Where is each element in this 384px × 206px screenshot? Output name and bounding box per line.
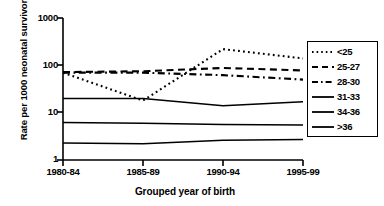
legend-swatch-dotted-icon <box>312 47 334 57</box>
legend-label-31-33: 31-33 <box>337 91 360 102</box>
legend-swatch-dashdot-icon <box>312 77 334 87</box>
x-axis-title: Grouped year of birth <box>60 186 310 197</box>
series-line-25-27 <box>63 68 303 72</box>
legend-item-34-36[interactable]: 34-36 <box>308 104 377 119</box>
legend-item-gt36[interactable]: >36 <box>308 119 377 134</box>
series-layer <box>63 49 303 144</box>
x-tick-label-1990-94: 1990-94 <box>188 166 258 177</box>
x-tick-label-1980-84: 1980-84 <box>28 166 98 177</box>
series-line-28-30 <box>63 73 303 80</box>
legend-label-lt25: <25 <box>337 46 352 57</box>
chart-container: Rate per 1000 neonatal survivors 1000 10… <box>0 0 384 206</box>
legend-item-25-27[interactable]: 25-27 <box>308 59 377 74</box>
x-tick-label-1985-89: 1985-89 <box>108 166 178 177</box>
legend: <25 25-27 28-30 31-33 34-36 <box>307 41 378 137</box>
legend-label-28-30: 28-30 <box>337 76 360 87</box>
legend-swatch-solid2-icon <box>312 107 334 117</box>
series-line-34-36 <box>63 122 303 124</box>
x-tick-label-1995-99: 1995-99 <box>268 166 338 177</box>
legend-label-gt36: >36 <box>337 121 352 132</box>
legend-label-25-27: 25-27 <box>337 61 360 72</box>
legend-swatch-solid3-icon <box>312 122 334 132</box>
series-line-gt36 <box>63 140 303 144</box>
legend-item-28-30[interactable]: 28-30 <box>308 74 377 89</box>
legend-item-lt25[interactable]: <25 <box>308 44 377 59</box>
series-line-lt25 <box>63 49 303 100</box>
series-line-31-33 <box>63 98 303 105</box>
legend-swatch-solid-icon <box>312 92 334 102</box>
legend-swatch-dashed-icon <box>312 62 334 72</box>
legend-item-31-33[interactable]: 31-33 <box>308 89 377 104</box>
legend-label-34-36: 34-36 <box>337 106 360 117</box>
